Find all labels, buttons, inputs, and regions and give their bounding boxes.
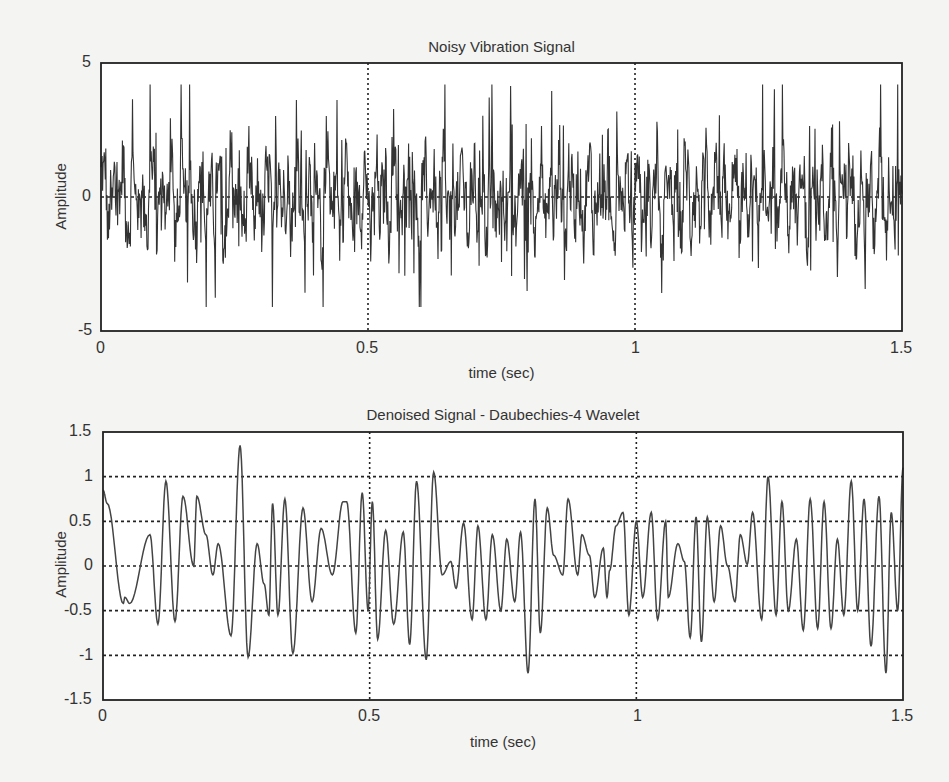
plot-canvas — [0, 0, 949, 782]
bottom-xtick-0.5: 0.5 — [358, 707, 380, 725]
top-plot-xlabel: time (sec) — [101, 364, 902, 381]
bottom-xtick-0: 0 — [98, 707, 107, 725]
top-ytick-0: 0 — [82, 187, 91, 205]
bottom-ytick-0: 0 — [84, 556, 93, 574]
bottom-ytick-1: 1 — [84, 467, 93, 485]
top-xtick-0.5: 0.5 — [356, 339, 378, 357]
top-plot-title: Noisy Vibration Signal — [101, 38, 902, 55]
bottom-plot-title: Denoised Signal - Daubechies-4 Wavelet — [103, 406, 903, 423]
top-xtick-0: 0 — [96, 339, 105, 357]
figure: Noisy Vibration Signal Amplitude time (s… — [0, 0, 949, 782]
bottom-xtick-1: 1 — [633, 707, 642, 725]
top-xtick-1: 1 — [631, 339, 640, 357]
bottom-ytick-neg1.5: -1.5 — [64, 690, 92, 708]
bottom-plot-ylabel: Amplitude — [52, 525, 69, 605]
bottom-ytick-1.5: 1.5 — [69, 422, 91, 440]
top-plot-ylabel: Amplitude — [52, 157, 69, 237]
top-ytick-neg5: -5 — [78, 321, 92, 339]
bottom-ytick-0.5: 0.5 — [69, 512, 91, 530]
bottom-xtick-1.5: 1.5 — [891, 707, 913, 725]
bottom-plot-xlabel: time (sec) — [103, 733, 903, 750]
bottom-ytick-neg1: -1 — [79, 646, 93, 664]
bottom-ytick-neg0.5: -0.5 — [64, 601, 92, 619]
top-xtick-1.5: 1.5 — [890, 339, 912, 357]
top-ytick-5: 5 — [82, 53, 91, 71]
